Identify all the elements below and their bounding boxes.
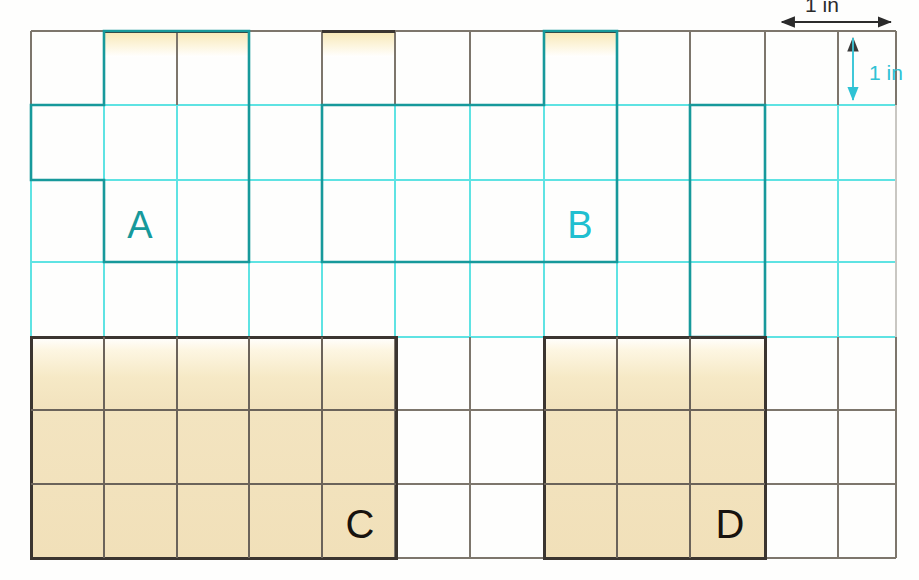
legend-horizontal-label: 1 in xyxy=(805,0,839,16)
grid-diagram: A B C D 1 in 1 in xyxy=(0,0,919,580)
shape-d-fill-row-top xyxy=(544,337,765,410)
cream-cap-extra-1 xyxy=(322,31,395,57)
shape-d-label: D xyxy=(716,502,745,546)
shape-b-label: B xyxy=(567,204,592,246)
shape-a-label: A xyxy=(127,204,153,246)
shape-c-label: C xyxy=(346,502,375,546)
shape-c-fill-row-top xyxy=(31,337,396,410)
legend-vertical-label: 1 in xyxy=(869,61,903,84)
worksheet-canvas: A B C D 1 in 1 in xyxy=(0,0,919,580)
cream-cap-shape-b xyxy=(544,31,617,57)
